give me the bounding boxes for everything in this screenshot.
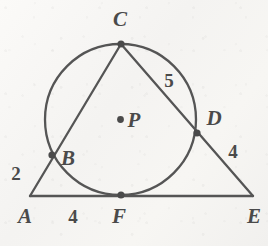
label-point-p: P	[128, 110, 141, 131]
label-point-a: A	[18, 206, 32, 227]
segment-ac	[30, 44, 121, 196]
label-point-e: E	[247, 206, 261, 227]
point-b-dot	[48, 151, 55, 158]
label-length-cd: 5	[164, 71, 174, 90]
label-length-de: 4	[228, 142, 238, 161]
label-point-b: B	[61, 148, 75, 169]
point-f-dot	[117, 191, 124, 198]
point-c-dot	[117, 40, 124, 47]
geometry-figure: C B D P A F E 2 5 4 4	[0, 0, 268, 246]
label-length-ab: 2	[11, 164, 21, 183]
point-d-dot	[193, 129, 200, 136]
label-point-c: C	[113, 9, 127, 30]
segment-ce	[121, 44, 253, 196]
label-point-f: F	[112, 206, 126, 227]
point-p-center-dot	[117, 116, 124, 123]
label-length-af: 4	[68, 207, 78, 226]
label-point-d: D	[206, 108, 221, 129]
